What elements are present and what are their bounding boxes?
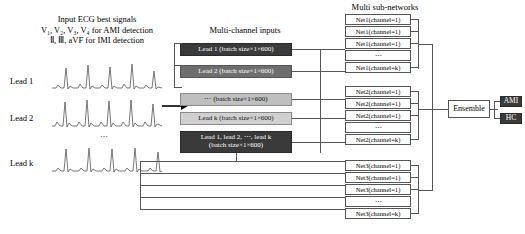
net3-row1-out xyxy=(411,165,419,166)
net1-row-1[interactable]: Net1(channel=1) xyxy=(345,14,411,25)
lead-1-label: Lead 1 xyxy=(10,76,33,86)
net2-row-3[interactable]: Net2(channel=1) xyxy=(345,110,411,121)
lead-k-label: Lead k xyxy=(10,158,33,168)
leads-vertical-dots: ⋯ xyxy=(100,132,109,141)
output-box-hc[interactable]: HC xyxy=(500,113,522,124)
net1-row-2[interactable]: Net1(channel=1) xyxy=(345,26,411,37)
net3-row-2[interactable]: Net3(channel=1) xyxy=(345,172,411,183)
net1-rowk-out xyxy=(411,67,419,68)
connector-leadk xyxy=(292,118,345,119)
input-box-lead-2[interactable]: Lead 2 (batch size×1×600) xyxy=(180,65,292,78)
bottom-fanout-2 xyxy=(140,173,345,174)
ensemble-out-hc xyxy=(494,118,500,119)
net3-rowk-out xyxy=(411,213,419,214)
left-panel-title: Input ECG best signals V₁, V₂, V₃, V₄ fo… xyxy=(22,14,172,46)
net2-row-2[interactable]: Net2(channel=1) xyxy=(345,98,411,109)
lead-k-waveform xyxy=(52,144,162,174)
connector-ellipsis xyxy=(292,99,345,100)
right-panel-title: Multi sub-networks xyxy=(330,2,440,13)
bottom-fanout-5 xyxy=(140,209,345,210)
net2-row3-out xyxy=(411,115,419,116)
left-title-line-2: V₁, V₂, V₃, V₄ for AMI detection xyxy=(22,25,172,36)
figure-root: Input ECG best signals V₁, V₂, V₃, V₄ fo… xyxy=(0,0,525,234)
ensemble-out-ami xyxy=(494,101,500,102)
input-box-ellipsis[interactable]: ⋯ (batch size×1×600) xyxy=(180,93,292,106)
lead-2-waveform xyxy=(52,98,162,130)
routing-rail-top xyxy=(174,43,182,44)
net2-rowk-out xyxy=(411,139,419,140)
connector-all-leads xyxy=(292,142,345,143)
connector-lead1 xyxy=(292,49,345,50)
bottom-fanout-vertical xyxy=(236,153,237,161)
bottom-fanout-4 xyxy=(140,197,345,198)
bottom-fanout-1 xyxy=(140,161,345,162)
ensemble-input-from-net2 xyxy=(418,109,448,110)
ensemble-input-from-net3 xyxy=(418,190,433,191)
input-box-lead-1[interactable]: Lead 1 (batch size×1×600) xyxy=(180,43,292,56)
left-title-line-3: Ⅱ, Ⅲ, aVF for IMI detection xyxy=(22,35,172,46)
routing-rail-mid xyxy=(174,65,182,66)
ensemble-input-from-net1 xyxy=(418,44,433,45)
input-box-lead-k[interactable]: Lead k (batch size×1×600) xyxy=(180,112,292,125)
net1-row1-out xyxy=(411,19,419,20)
middle-bus-vertical xyxy=(320,49,321,153)
net2-row-1[interactable]: Net2(channel=1) xyxy=(345,86,411,97)
net2-row-ellipsis: ⋯ xyxy=(345,122,411,133)
net3-row-ellipsis: ⋯ xyxy=(345,196,411,207)
input-box-all-leads[interactable]: Lead 1, lead 2, ⋯, lead k (batch size×1×… xyxy=(180,131,292,153)
net1-row-k[interactable]: Net1(channel=k) xyxy=(345,62,411,73)
net1-row2-out xyxy=(411,31,419,32)
output-box-ami[interactable]: AMI xyxy=(500,96,522,107)
ensemble-input-rail xyxy=(432,44,433,109)
net2-row2-out xyxy=(411,103,419,104)
net3-row2-out xyxy=(411,177,419,178)
net3-row-3[interactable]: Net3(channel=1) xyxy=(345,184,411,195)
routing-rail-bot xyxy=(174,87,182,88)
net1-row-3[interactable]: Net1(channel=1) xyxy=(345,38,411,49)
ensemble-box[interactable]: Ensemble xyxy=(448,100,490,118)
net2-row-k[interactable]: Net2(channel=k) xyxy=(345,134,411,145)
net3-row-1[interactable]: Net3(channel=1) xyxy=(345,160,411,171)
ensemble-out-split xyxy=(494,101,495,118)
input-box-all-leads-line-2: (batch size×1×600) xyxy=(209,142,263,150)
bottom-fanout-left-rail xyxy=(140,161,141,209)
lead-1-waveform xyxy=(52,62,162,92)
bottom-fanout-3 xyxy=(140,185,345,186)
left-title-line-1: Input ECG best signals xyxy=(22,14,172,25)
lead-2-label: Lead 2 xyxy=(10,113,33,123)
net2-row1-out xyxy=(411,91,419,92)
middle-panel-title: Multi-channel inputs xyxy=(190,25,300,36)
net1-row-ellipsis: ⋯ xyxy=(345,50,411,61)
connector-lead2 xyxy=(292,71,345,72)
ensemble-input-rail-lower xyxy=(432,109,433,190)
net3-row-k[interactable]: Net3(channel=k) xyxy=(345,208,411,219)
